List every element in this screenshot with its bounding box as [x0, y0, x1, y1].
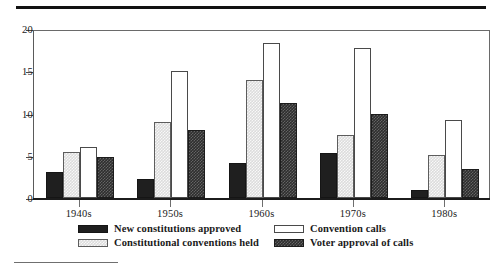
bar	[137, 179, 154, 198]
legend-item-convention-calls: Convention calls	[274, 223, 386, 234]
legend-item-new-constitutions-approved: New constitutions approved	[78, 223, 241, 234]
y-axis: 05101520	[0, 24, 33, 206]
top-divider-rule	[16, 6, 486, 9]
bars-container	[34, 31, 489, 198]
x-tick-mark	[353, 200, 354, 207]
x-tick-mark	[444, 200, 445, 207]
x-tick-mark	[262, 200, 263, 207]
x-tick-label: 1960s	[222, 208, 302, 220]
legend-swatch-icon	[274, 239, 304, 247]
bar	[320, 153, 337, 198]
bar	[371, 114, 388, 199]
y-tick-label: 15	[11, 67, 33, 77]
bar	[46, 172, 63, 198]
bar	[428, 155, 445, 198]
x-tick-mark	[170, 200, 171, 207]
y-tick-label: 20	[11, 25, 33, 35]
legend-swatch-icon	[78, 225, 108, 233]
bar	[246, 80, 263, 198]
bar	[63, 152, 80, 198]
bar	[154, 122, 171, 198]
legend-item-constitutional-conventions-held: Constitutional conventions held	[78, 237, 259, 248]
bar	[411, 190, 428, 198]
y-tick-label: 5	[11, 152, 33, 162]
x-tick-label: 1970s	[313, 208, 393, 220]
legend-item-label: Convention calls	[310, 223, 386, 234]
bar	[462, 169, 479, 198]
x-tick-label: 1950s	[130, 208, 210, 220]
y-tick-label: 0	[11, 194, 33, 204]
chart-legend: New constitutions approved Constitutiona…	[78, 223, 438, 251]
bar	[188, 130, 205, 198]
bar	[337, 135, 354, 198]
legend-item-label: Voter approval of calls	[310, 237, 413, 248]
legend-item-label: New constitutions approved	[114, 223, 241, 234]
legend-swatch-icon	[78, 239, 108, 247]
bar	[280, 103, 297, 198]
bar	[445, 120, 462, 198]
x-tick-label: 1980s	[404, 208, 484, 220]
bar	[263, 43, 280, 198]
bar	[354, 48, 371, 198]
x-tick-mark	[79, 200, 80, 207]
legend-item-voter-approval-of-calls: Voter approval of calls	[274, 237, 413, 248]
legend-item-label: Constitutional conventions held	[114, 237, 259, 248]
x-tick-label: 1940s	[39, 208, 119, 220]
footnote-rule	[14, 262, 118, 263]
y-tick-label: 10	[11, 110, 33, 120]
bar	[229, 163, 246, 198]
bar	[97, 157, 114, 198]
bar	[80, 147, 97, 198]
bar	[171, 71, 188, 198]
chart-plot-area	[33, 30, 490, 199]
legend-swatch-icon	[274, 225, 304, 233]
